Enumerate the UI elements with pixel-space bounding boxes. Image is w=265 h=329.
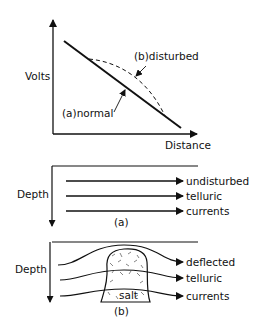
caption-b: (b) (114, 305, 129, 317)
depth-label: Depth (15, 263, 47, 275)
salt-label: salt (119, 289, 138, 301)
telluric-diagram: Volts Distance (b)disturbed (a)normal De… (0, 0, 265, 329)
caption-a: (a) (114, 216, 129, 228)
depth-label: Depth (17, 188, 49, 200)
undisturbed-panel: Depth undisturbed telluric currents (a) (17, 166, 249, 228)
disturbed-label: (b)disturbed (134, 50, 199, 62)
arrow-label-currents: currents (186, 205, 229, 217)
disturbed-pointer (136, 66, 146, 76)
arrow-label-deflected: deflected (186, 256, 235, 268)
arrow-label-currents: currents (186, 290, 229, 302)
normal-pointer (114, 90, 125, 112)
arrow-label-telluric: telluric (186, 190, 222, 202)
volts-distance-graph: Volts Distance (b)disturbed (a)normal (25, 20, 211, 151)
arrow-label-undisturbed: undisturbed (186, 175, 249, 187)
arrow-label-telluric: telluric (186, 272, 222, 284)
volts-label: Volts (25, 70, 50, 82)
normal-label: (a)normal (62, 107, 113, 119)
distance-label: Distance (165, 139, 211, 151)
salt-dome-panel: Depth salt deflected telluric currents (… (15, 242, 235, 317)
